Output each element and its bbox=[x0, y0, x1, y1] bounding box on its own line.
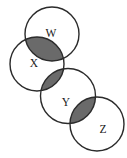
venn-diagram-canvas: W X Y Z bbox=[0, 0, 127, 158]
venn-diagram-figure: W X Y Z bbox=[0, 0, 127, 158]
